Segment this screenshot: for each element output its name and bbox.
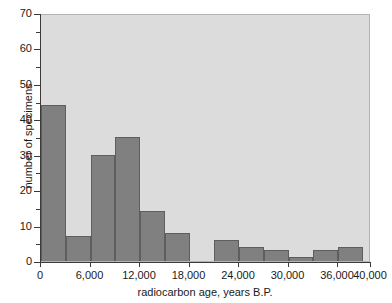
y-tick-label: 70 [2,8,32,19]
y-axis-title: number of specimens [22,56,34,216]
x-tick-label: 6,000 [76,269,104,281]
x-tick-major [90,262,91,267]
histogram-bar [214,240,239,261]
x-axis-title: radiocarbon age, years B.P. [40,286,370,298]
y-tick-minor [36,173,41,174]
y-tick-minor [36,67,41,68]
plot-area [40,14,370,262]
histogram-bar [289,257,314,261]
histogram-bar [239,247,264,261]
histogram-bar [115,137,140,261]
x-tick-major [139,262,140,267]
y-tick-major [34,156,41,157]
x-tick-major [337,262,338,267]
histogram-bar [140,211,165,261]
y-tick-major [34,227,41,228]
y-tick-major [34,14,41,15]
y-tick-minor [36,32,41,33]
histogram-bar [313,250,338,261]
x-tick-major [238,262,239,267]
y-tick-major [34,191,41,192]
histogram-bar [91,155,116,261]
x-tick-label: 36,000 [320,269,354,281]
y-tick-minor [36,244,41,245]
y-tick-minor [36,138,41,139]
histogram-bar [41,105,66,261]
y-tick-major [34,120,41,121]
histogram-bar [165,233,190,261]
x-tick-major [189,262,190,267]
x-tick-major [40,262,41,267]
x-tick-label: 24,000 [221,269,255,281]
x-tick-label: 40,000 [353,269,387,281]
x-tick-label: 30,000 [271,269,305,281]
x-tick-major [288,262,289,267]
x-tick-label: 18,000 [172,269,206,281]
y-tick-major [34,49,41,50]
histogram-bar [338,247,363,261]
y-tick-label: 0 [2,256,32,267]
x-tick-major [370,262,371,267]
bars-layer [41,15,369,261]
histogram-figure: 010203040506070 06,00012,00018,00024,000… [0,0,392,303]
y-tick-label: 10 [2,221,32,232]
y-tick-major [34,85,41,86]
x-tick-label: 0 [37,269,43,281]
y-tick-label: 60 [2,43,32,54]
x-tick-label: 12,000 [122,269,156,281]
histogram-bar [66,236,91,261]
y-tick-minor [36,103,41,104]
y-tick-minor [36,209,41,210]
histogram-bar [264,250,289,261]
